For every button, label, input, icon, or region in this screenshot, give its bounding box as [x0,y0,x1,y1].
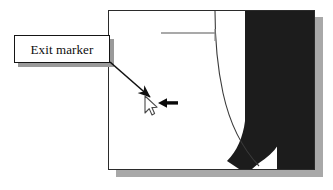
panel-graphics [109,11,314,169]
dark-region-notch [277,97,287,131]
exit-marker-callout: Exit marker [14,35,110,63]
annotated-screenshot-figure: Exit marker [0,0,333,190]
screenshot-panel [108,10,315,170]
callout-label: Exit marker [31,43,94,56]
dark-region-edge [277,11,287,169]
